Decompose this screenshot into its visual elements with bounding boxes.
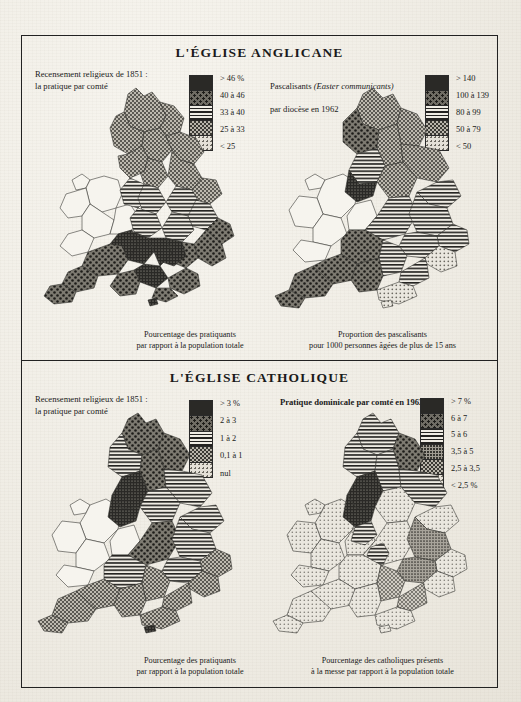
caption-anglican-1851: Pourcentage des pratiquants par rapport … [100,329,280,351]
map-anglican-1962 [267,84,492,334]
caption-catholic-1851: Pourcentage des pratiquants par rapport … [100,655,280,677]
legend-label: > 140 [456,75,489,83]
legend-label: > 7 % [451,398,480,406]
map-catholic-1962 [267,411,492,661]
panel-catholic: L'ÉGLISE CATHOLIQUE Recensement religieu… [22,361,497,687]
legend-label: > 46 % [220,75,245,83]
panel-anglican: L'ÉGLISE ANGLICANE Recensement religieux… [22,36,497,361]
atlas-plate: L'ÉGLISE ANGLICANE Recensement religieux… [21,35,498,688]
subtitle-catholic-1962: Pratique dominicale par comté en 1962 [280,397,423,409]
map-anglican-1851 [32,84,257,334]
legend-label: > 3 % [220,400,243,408]
panel-title-catholic: L'ÉGLISE CATHOLIQUE [22,370,497,386]
caption-anglican-1962: Proportion des pascalisants pour 1000 pe… [280,329,485,351]
map-catholic-1851 [32,411,257,661]
panel-title-anglican: L'ÉGLISE ANGLICANE [22,45,497,61]
caption-catholic-1962: Pourcentage des catholiques présents à l… [280,655,485,677]
